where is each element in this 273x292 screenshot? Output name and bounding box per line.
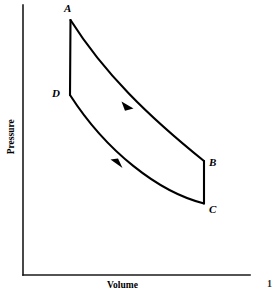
y-axis-label: Pressure (7, 102, 17, 172)
segment-da-line (70, 20, 71, 95)
x-axis-label: Volume (0, 281, 245, 291)
segment-cd-curve (70, 95, 204, 204)
arrow-cd-icon (111, 159, 123, 169)
arrow-ab-icon (122, 102, 134, 111)
vertex-label-c: C (209, 204, 216, 215)
pv-diagram-figure: A B C D Volume Pressure 1 (0, 0, 273, 292)
vertex-label-a: A (64, 3, 71, 14)
pv-diagram-canvas (0, 0, 273, 292)
segment-ab-curve (71, 20, 205, 161)
vertex-label-b: B (209, 157, 216, 168)
vertex-label-d: D (52, 88, 60, 99)
page-number-marker: 1 (267, 279, 272, 289)
